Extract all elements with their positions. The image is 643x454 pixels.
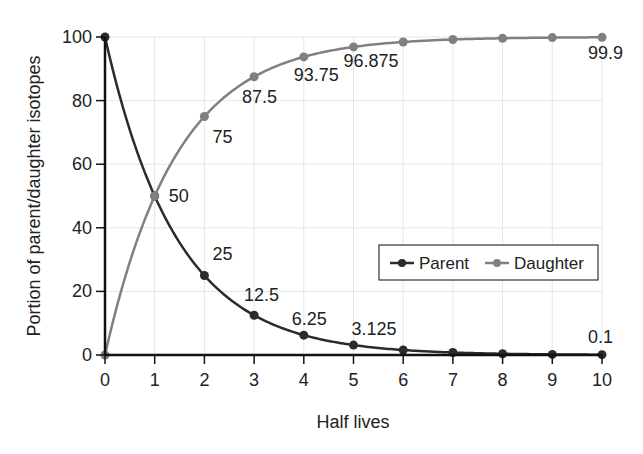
y-tick-label: 20 — [72, 281, 92, 301]
legend-label-parent: Parent — [419, 254, 469, 273]
x-tick-label: 7 — [448, 370, 458, 390]
x-tick-label: 8 — [498, 370, 508, 390]
legend: Parent Daughter — [379, 245, 598, 280]
daughter-marker-icon — [493, 259, 501, 267]
x-tick-label: 9 — [547, 370, 557, 390]
data-point-daughter — [598, 33, 607, 42]
x-tick-label: 0 — [100, 370, 110, 390]
x-tick-label: 5 — [348, 370, 358, 390]
x-tick-label: 3 — [249, 370, 259, 390]
y-tick-label: 40 — [72, 218, 92, 238]
x-axis-title: Half lives — [316, 412, 389, 432]
x-tick-label: 1 — [150, 370, 160, 390]
y-tick-label: 60 — [72, 154, 92, 174]
data-label: 93.75 — [294, 65, 339, 85]
legend-label-daughter: Daughter — [514, 254, 584, 273]
data-point-parent — [349, 341, 358, 350]
data-point-daughter — [250, 72, 259, 81]
data-label: 3.125 — [352, 319, 397, 339]
data-label: 96.875 — [344, 51, 399, 71]
y-axis-title: Portion of parent/daughter isotopes — [24, 55, 44, 336]
x-tick-label: 4 — [299, 370, 309, 390]
data-label: 50 — [169, 186, 189, 206]
data-label: 99.9 — [588, 43, 623, 63]
data-point-daughter — [200, 112, 209, 121]
data-point-parent — [399, 346, 408, 355]
data-point-daughter — [448, 35, 457, 44]
data-point-daughter — [399, 37, 408, 46]
data-label: 25 — [212, 244, 232, 264]
data-point-parent — [200, 271, 209, 280]
data-point-daughter — [498, 34, 507, 43]
x-tick-label: 6 — [398, 370, 408, 390]
half-life-chart: 020406080100012345678910 507587.593.7596… — [0, 0, 643, 454]
data-point-daughter — [548, 33, 557, 42]
data-label: 0.1 — [588, 327, 613, 347]
data-label: 12.5 — [244, 285, 279, 305]
data-point-daughter — [150, 192, 159, 201]
data-point-parent — [299, 331, 308, 340]
y-tick-label: 100 — [62, 27, 92, 47]
y-tick-label: 0 — [82, 345, 92, 365]
data-point-daughter — [299, 52, 308, 61]
data-label: 87.5 — [242, 87, 277, 107]
data-point-parent — [250, 311, 259, 320]
data-label: 6.25 — [292, 309, 327, 329]
x-tick-label: 2 — [199, 370, 209, 390]
data-label: 75 — [212, 127, 232, 147]
x-tick-label: 10 — [592, 370, 612, 390]
parent-marker-icon — [398, 259, 406, 267]
y-tick-label: 80 — [72, 91, 92, 111]
